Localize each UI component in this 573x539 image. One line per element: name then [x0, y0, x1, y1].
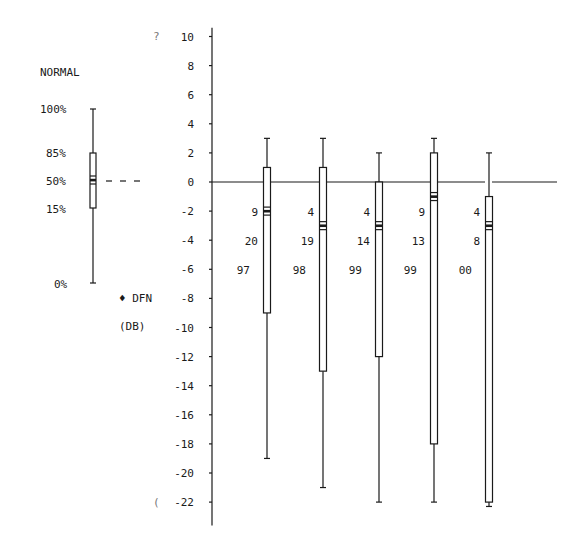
y-tick-label: -14	[174, 380, 194, 393]
data-boxes: 920974199841499913994800	[237, 138, 493, 506]
y-tick-label: -6	[181, 263, 194, 276]
y-tick-label: -8	[181, 292, 194, 305]
box-label: 4	[307, 206, 314, 219]
legend-label-85: 85%	[46, 147, 66, 160]
y-tick-label: -4	[181, 234, 195, 247]
y-tick-label: -16	[174, 409, 194, 422]
legend-label-50: 50%	[46, 175, 66, 188]
box-label: 99	[349, 264, 362, 277]
y-tick-label: 10	[181, 31, 194, 44]
y-tick-label: -12	[174, 351, 194, 364]
box-label: 98	[293, 264, 306, 277]
box-label: 4	[473, 206, 480, 219]
box-plot-5: 4800	[459, 153, 493, 507]
box-label: 13	[412, 235, 425, 248]
box-label: 4	[363, 206, 370, 219]
box-label: 9	[251, 206, 258, 219]
y-tick-label: -10	[174, 322, 194, 335]
y-axis: 1086420-2-4-6-8-10-12-14-16-18-20-22	[174, 28, 557, 526]
y-tick-label: 0	[187, 176, 194, 189]
text-fragment-bottom: (	[153, 496, 160, 509]
legend-label-100: 100%	[40, 103, 67, 116]
box-label: 14	[357, 235, 371, 248]
box-label: 00	[459, 264, 472, 277]
y-tick-label: 4	[187, 118, 194, 131]
box-label: 97	[237, 264, 250, 277]
y-tick-label: -20	[174, 467, 194, 480]
legend-label-0: 0%	[54, 278, 68, 291]
box-label: 19	[301, 235, 314, 248]
text-fragment-top: ?	[153, 30, 160, 43]
legend-label-15: 15%	[46, 203, 66, 216]
box-label: 20	[245, 235, 258, 248]
boxplot-chart: NORMAL 100% 85% 50% 15% 0% ♦ DFN (DB) ? …	[0, 0, 573, 539]
y-tick-label: -18	[174, 438, 194, 451]
y-tick-label: 8	[187, 60, 194, 73]
box-plot-2: 41998	[293, 138, 327, 487]
box-plot-4: 91399	[404, 138, 438, 502]
axis-label-db: (DB)	[119, 320, 146, 333]
axis-label-dfn: ♦ DFN	[119, 292, 152, 305]
box-label: 99	[404, 264, 417, 277]
legend-title: NORMAL	[40, 66, 80, 79]
y-tick-label: -22	[174, 496, 194, 509]
box-label: 9	[418, 206, 425, 219]
box-label: 8	[473, 235, 480, 248]
box-plot-1: 92097	[237, 138, 271, 458]
y-tick-label: -2	[181, 205, 194, 218]
legend-box-plot	[90, 109, 140, 283]
y-tick-label: 2	[187, 147, 194, 160]
box-plot-3: 41499	[349, 153, 383, 502]
y-tick-label: 6	[187, 89, 194, 102]
